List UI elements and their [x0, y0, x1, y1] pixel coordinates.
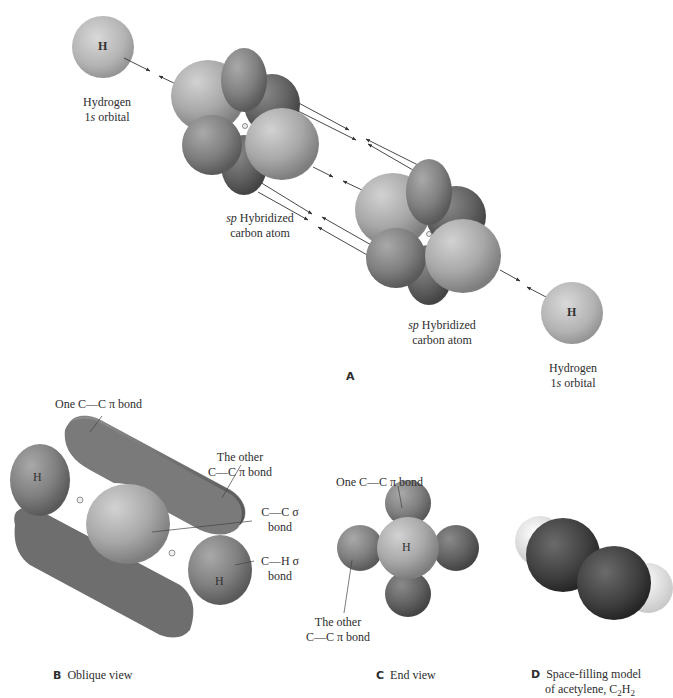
- cc-sigma-bond-label: C—C σ bond: [256, 505, 304, 535]
- oblique-h-right: H: [215, 574, 224, 589]
- other-pi-bond-label: The other C—C π bond: [200, 450, 280, 480]
- sp-carbon-left-label: sp Hybridized carbon atom: [205, 211, 315, 241]
- panel-c-caption: CEnd view: [376, 668, 436, 683]
- panel-a-letter: A: [346, 369, 361, 384]
- end-view-one-pi-label: One C—C π bond: [336, 475, 423, 490]
- hydrogen-right-label: Hydrogen 1s orbital: [542, 361, 604, 391]
- h-right-symbol: H: [567, 305, 576, 320]
- sp-hybridized-carbon-right: [355, 159, 501, 305]
- sp-hybridized-carbon-left: [171, 48, 319, 195]
- end-view-other-pi-label: The other C—C π bond: [298, 615, 378, 645]
- one-pi-bond-label: One C—C π bond: [55, 397, 142, 412]
- end-view-h-symbol: H: [402, 540, 411, 555]
- panel-b-caption: BOblique view: [53, 668, 132, 683]
- ch-sigma-bond-label: C—H σ bond: [256, 554, 304, 584]
- sp-carbon-right-label: sp Hybridized carbon atom: [387, 318, 497, 348]
- hydrogen-left-label: Hydrogen 1s orbital: [78, 95, 136, 125]
- h-left-symbol: H: [98, 39, 107, 54]
- space-filling-model: [515, 516, 673, 620]
- panel-d-caption: DSpace-filling model of acetylene, C2H2: [531, 667, 641, 698]
- oblique-h-left: H: [33, 470, 42, 485]
